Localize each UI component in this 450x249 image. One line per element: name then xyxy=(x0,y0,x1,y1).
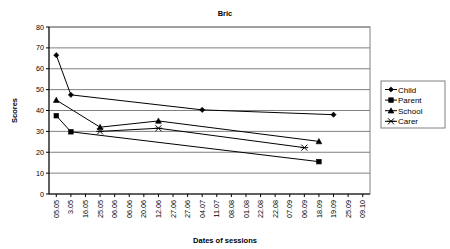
x-tick-label: 22.08 xyxy=(271,200,280,218)
y-tick-label: 60 xyxy=(36,64,44,73)
x-tick-label: 18.09 xyxy=(315,200,324,218)
x-tick-label: 11.07 xyxy=(212,200,221,217)
y-tick-label: 20 xyxy=(36,148,44,157)
chart-container: Bric0102030405060708005.053.0516.0525.05… xyxy=(0,0,450,249)
y-axis-title: Scores xyxy=(10,98,19,123)
data-point-marker xyxy=(331,112,336,117)
x-tick-label: 05.05 xyxy=(52,200,61,218)
chart-title: Bric xyxy=(218,9,233,18)
legend-label: Child xyxy=(398,86,416,95)
x-axis-title: Dates of sessions xyxy=(193,236,257,245)
series-line xyxy=(100,121,158,127)
data-point-marker xyxy=(317,159,322,164)
y-tick-label: 50 xyxy=(36,85,44,94)
y-tick-label: 10 xyxy=(36,169,44,178)
data-point-marker xyxy=(53,97,59,102)
legend-label: School xyxy=(398,107,423,116)
y-tick-label: 80 xyxy=(36,23,44,32)
x-tick-label: 27.06 xyxy=(183,200,192,218)
y-tick-label: 40 xyxy=(36,106,44,115)
series-school xyxy=(53,97,321,144)
series-child xyxy=(54,53,336,118)
x-tick-label: 04.07 xyxy=(198,200,207,218)
y-tick-label: 70 xyxy=(36,43,44,52)
x-tick-label: 06.06 xyxy=(110,200,119,218)
data-point-marker xyxy=(68,92,73,97)
legend-label: Parent xyxy=(398,96,422,105)
x-tick-label: 01.08 xyxy=(242,200,251,218)
x-tick-label: 3.05 xyxy=(66,200,75,214)
data-point-marker xyxy=(69,129,74,134)
x-tick-label: 22.08 xyxy=(256,200,265,218)
series-line xyxy=(56,55,71,95)
x-tick-label: 20.06 xyxy=(139,200,148,218)
legend-marker-icon xyxy=(389,98,394,103)
data-point-marker xyxy=(54,53,59,58)
x-tick-label: 25.09 xyxy=(344,200,353,218)
x-tick-label: 27.06 xyxy=(169,200,178,218)
x-tick-label: 08.08 xyxy=(227,200,236,218)
x-tick-label: 09.10 xyxy=(358,200,367,218)
data-point-marker xyxy=(54,113,59,118)
chart-legend: ChildParentSchoolCarer xyxy=(381,81,445,128)
y-tick-label: 0 xyxy=(40,190,44,199)
line-chart: Bric0102030405060708005.053.0516.0525.05… xyxy=(0,0,450,249)
x-tick-label: 07.09 xyxy=(285,200,294,218)
legend-label: Carer xyxy=(398,117,418,126)
y-tick-label: 30 xyxy=(36,127,44,136)
x-tick-label: 06.06 xyxy=(125,200,134,218)
x-tick-label: 12.06 xyxy=(154,200,163,218)
series-line xyxy=(71,95,202,110)
series-parent xyxy=(54,113,321,164)
x-tick-label: 25.05 xyxy=(96,200,105,218)
x-tick-label: 16.05 xyxy=(81,200,90,218)
x-tick-label: 19.09 xyxy=(329,200,338,218)
data-point-marker xyxy=(200,107,205,112)
x-tick-label: 06.09 xyxy=(300,200,309,218)
series-carer xyxy=(96,125,308,150)
